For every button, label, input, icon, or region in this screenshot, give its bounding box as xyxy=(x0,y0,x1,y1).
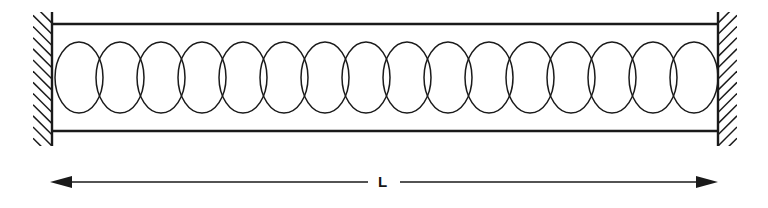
right-wall xyxy=(718,0,737,191)
dimension-label-L: L xyxy=(378,174,387,189)
left-wall-hatch-line xyxy=(33,15,52,34)
helical-spring xyxy=(55,42,718,113)
left-wall-hatch-line xyxy=(33,71,52,90)
right-wall-hatch-line xyxy=(718,4,737,23)
right-wall-hatch-line xyxy=(718,149,737,168)
right-wall-hatch-line xyxy=(718,138,737,157)
dimension-arrowhead-left xyxy=(50,176,72,188)
left-wall-hatching xyxy=(33,0,52,191)
right-wall-hatch-line xyxy=(718,116,737,135)
right-wall-hatch-line xyxy=(718,49,737,68)
right-wall-hatch-line xyxy=(718,94,737,113)
left-wall-hatch-line xyxy=(33,105,52,124)
left-wall-hatch-line xyxy=(33,27,52,46)
left-wall-hatch-line xyxy=(33,4,52,23)
spring-diagram-figure: L xyxy=(0,0,768,208)
left-wall-hatch-line xyxy=(33,127,52,146)
left-wall-hatch-line xyxy=(33,94,52,113)
right-wall-hatch-line xyxy=(718,0,737,12)
right-wall-hatch-line xyxy=(718,0,737,1)
left-wall-hatch-line xyxy=(33,49,52,68)
left-wall-hatch-line xyxy=(33,0,52,12)
dimension-arrowhead-right xyxy=(696,176,718,188)
right-wall-hatching xyxy=(718,0,737,191)
left-wall xyxy=(33,0,52,191)
left-wall-hatch-line xyxy=(33,38,52,57)
left-wall-hatch-line xyxy=(33,138,52,157)
right-wall-hatch-line xyxy=(718,161,737,180)
right-wall-hatch-line xyxy=(718,71,737,90)
left-wall-hatch-line xyxy=(33,82,52,101)
left-wall-hatch-line xyxy=(33,172,52,191)
left-wall-hatch-line xyxy=(33,161,52,180)
right-wall-hatch-line xyxy=(718,60,737,79)
right-wall-hatch-line xyxy=(718,38,737,57)
right-wall-hatch-line xyxy=(718,127,737,146)
right-wall-hatch-line xyxy=(718,105,737,124)
right-wall-hatch-line xyxy=(718,172,737,191)
left-wall-hatch-line xyxy=(33,60,52,79)
left-wall-hatch-line xyxy=(33,0,52,1)
right-wall-hatch-line xyxy=(718,15,737,34)
left-wall-hatch-line xyxy=(33,116,52,135)
right-wall-hatch-line xyxy=(718,27,737,46)
right-wall-hatch-line xyxy=(718,82,737,101)
left-wall-hatch-line xyxy=(33,149,52,168)
